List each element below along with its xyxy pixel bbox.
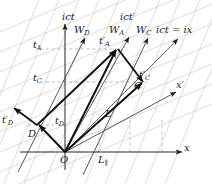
vector-O-to-D [39,125,65,152]
label-tD: tD [55,116,64,127]
label-worldline-WA: WA [109,25,124,36]
label-event-C: C [134,81,142,91]
label-ict-prime-axis: ict′ [120,12,135,22]
label-event-D: D [28,129,36,139]
label-tA-prime: t′A [99,36,110,47]
label-length-L: L [105,109,112,119]
label-x-prime-axis: x′ [176,80,184,90]
label-tA: tA [33,40,42,51]
label-ict-axis: ict [62,12,75,22]
label-tD-prime: t′D [2,115,13,126]
label-length-L-parallel: L∥ [98,155,108,166]
label-x-axis: x [184,143,190,153]
spacetime-diagram-figure: ict ict′ ict = ix x x′ WD WA WC tA tC tD… [0,0,212,184]
vector-O-to-A [65,50,116,152]
label-tC: tC [33,73,42,84]
dashed-construction-lines [28,49,146,125]
label-light-cone: ict = ix [156,25,192,35]
label-worldline-WD: WD [74,25,90,36]
label-origin-O: O [60,155,68,165]
label-worldline-WC: WC [136,25,151,36]
